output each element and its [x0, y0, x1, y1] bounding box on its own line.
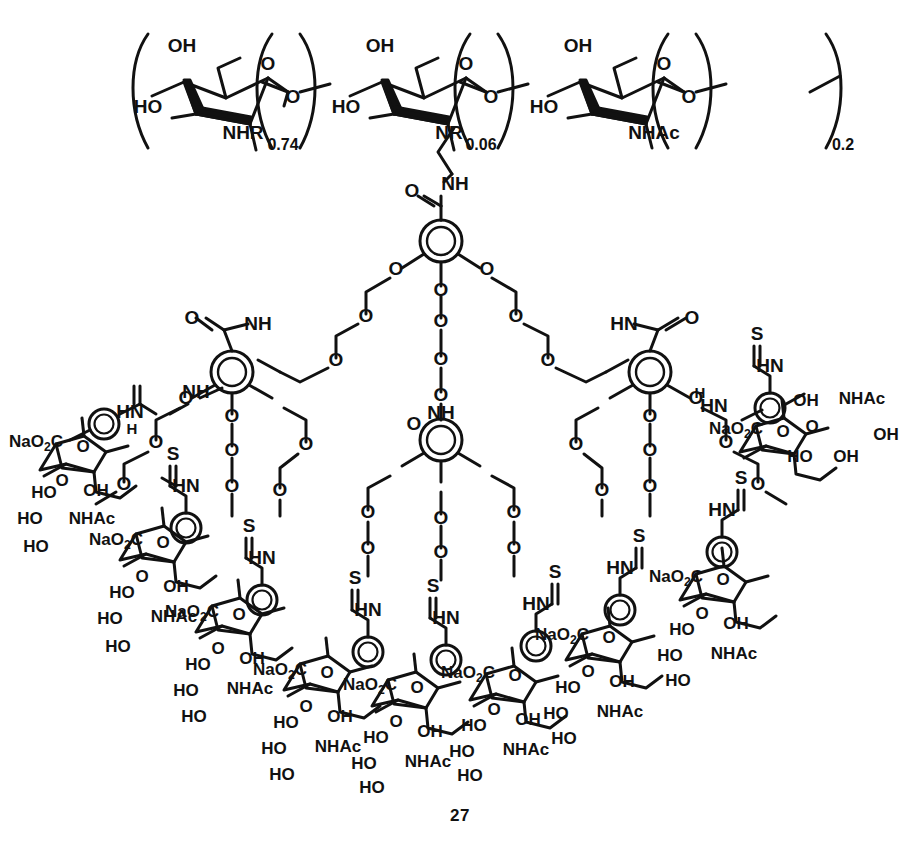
thiourea-s: S	[751, 323, 764, 344]
sialic-ho: HO	[97, 609, 123, 628]
sialic-ho: HO	[181, 707, 207, 726]
core-amide-nh: NH	[441, 173, 468, 194]
aryl-ether-o: O	[602, 628, 615, 647]
ether-o: O	[149, 431, 164, 452]
chemical-structure-figure: OH O HO NHR O OH O HO NR O OH O HO NHAc …	[0, 0, 920, 846]
atom-label-glycosidic-o: O	[286, 86, 301, 107]
sialic-ho: HO	[363, 728, 389, 747]
thiourea-hn: HN	[354, 599, 381, 620]
ether-o: O	[751, 473, 766, 494]
sialic-ho: HO	[269, 765, 295, 784]
sialic-carboxylate: NaO2C	[89, 530, 143, 552]
thiourea-h: H	[695, 384, 706, 401]
sialic-carboxylate: NaO2C	[535, 625, 589, 647]
thiourea-s: S	[549, 561, 562, 582]
aryl-ether-o: O	[320, 663, 333, 682]
sialic-ring-o: O	[581, 662, 594, 681]
thiourea-h: H	[127, 420, 138, 437]
branch-amide-o: O	[407, 413, 422, 434]
thiourea-s: S	[167, 443, 180, 464]
thiourea-hn: HN	[756, 355, 783, 376]
ether-o: O	[434, 348, 449, 369]
sialic-carboxylate: NaO2C	[649, 567, 703, 589]
sialic-ho: HO	[665, 671, 691, 690]
ether-o: O	[273, 479, 288, 500]
thiourea-s: S	[243, 515, 256, 536]
branch-amide-hn: HN	[610, 313, 637, 334]
sialic-oh: OH	[873, 425, 899, 444]
structure-canvas: OH O HO NHR O OH O HO NR O OH O HO NHAc …	[0, 0, 920, 846]
sialic-ring-o: O	[389, 712, 402, 731]
sialic-ho: HO	[359, 778, 385, 797]
atom-label-oh: OH	[564, 35, 593, 56]
ether-o: O	[643, 439, 658, 460]
ether-o: O	[117, 473, 132, 494]
branch-amide-o: O	[185, 307, 200, 328]
thiourea-hn: HN	[522, 593, 549, 614]
ether-o: O	[643, 405, 658, 426]
branch-amide-o: O	[685, 307, 700, 328]
sialic-ho: HO	[17, 509, 43, 528]
atom-label-ho: HO	[530, 96, 559, 117]
thiourea-hn: HN	[116, 401, 143, 422]
ether-o: O	[507, 501, 522, 522]
thiourea-nh: NH	[182, 381, 209, 402]
ether-o: O	[595, 479, 610, 500]
compound-number: 27	[0, 806, 920, 826]
aryl-ether-o: O	[76, 437, 89, 456]
sialic-ho: HO	[105, 637, 131, 656]
sialic-oh: OH	[417, 722, 443, 741]
ether-o: O	[507, 537, 522, 558]
sialic-carboxylate: NaO2C	[253, 660, 307, 682]
thiourea-hn: HN	[708, 499, 735, 520]
sialic-oh: OH	[83, 481, 109, 500]
atom-label-ho: HO	[332, 96, 361, 117]
ether-o: O	[329, 349, 344, 370]
sialic-ho: HO	[551, 729, 577, 748]
ether-o: O	[359, 305, 374, 326]
sialic-carboxylate: NaO2C	[441, 663, 495, 685]
thiourea-hn: HN	[248, 547, 275, 568]
sialic-ho: HO	[185, 655, 211, 674]
sialic-ho: HO	[23, 537, 49, 556]
thiourea-hn: HN	[606, 557, 633, 578]
atom-label-nr: NR	[435, 122, 463, 143]
thiourea-hn: HN	[172, 475, 199, 496]
sialic-ho: HO	[449, 742, 475, 761]
ether-o: O	[299, 433, 314, 454]
core-amide-o: O	[405, 180, 420, 201]
aryl-ether-o: O	[508, 666, 521, 685]
ether-o: O	[509, 305, 524, 326]
ether-o: O	[434, 310, 449, 331]
sialic-carboxylate: NaO2C	[165, 602, 219, 624]
core-ether-o: O	[480, 258, 495, 279]
sialic-ho: HO	[109, 583, 135, 602]
sialic-ho: HO	[657, 646, 683, 665]
ether-o: O	[434, 507, 449, 528]
atom-label-glycosidic-o: O	[682, 86, 697, 107]
sialic-oh: OH	[327, 707, 353, 726]
sialic-ring-o: O	[211, 639, 224, 658]
branch-amide-nh: NH	[244, 313, 271, 334]
aryl-ether-o: O	[716, 570, 729, 589]
sialic-ring-o: O	[135, 567, 148, 586]
sialic-ho: HO	[273, 713, 299, 732]
atom-label-nhr: NHR	[222, 122, 263, 143]
stoichiometry-074: 0.74	[267, 136, 298, 153]
atom-label-ring-o: O	[261, 53, 276, 74]
aryl-ether-o: O	[232, 605, 245, 624]
aryl-ether-o: O	[156, 533, 169, 552]
thiourea-s: S	[735, 467, 748, 488]
sialic-ho: HO	[173, 681, 199, 700]
aryl-ether-o: O	[410, 678, 423, 697]
sialic-carboxylate: NaO2C	[709, 419, 763, 441]
core-ether-o: O	[434, 279, 449, 300]
sialic-nhac: NHAc	[597, 702, 643, 721]
ether-o: O	[434, 541, 449, 562]
sialic-nhac: NHAc	[405, 752, 451, 771]
sialic-ho: HO	[461, 716, 487, 735]
branch-amide-nh: NH	[427, 402, 454, 423]
sialic-ring-o: O	[487, 700, 500, 719]
sialic-ho: HO	[261, 739, 287, 758]
sialic-nhac: NHAc	[711, 644, 757, 663]
